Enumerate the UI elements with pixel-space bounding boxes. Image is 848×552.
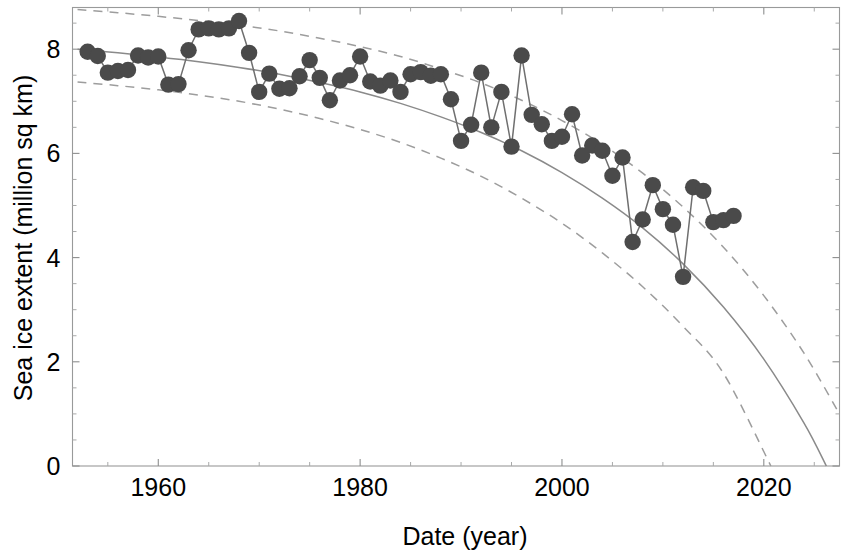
data-point [322,92,338,108]
upper-confidence-curve [78,10,840,414]
data-point [564,106,580,122]
data-point [392,84,408,100]
y-tick-label: 2 [47,348,61,376]
plot-frame [73,8,840,467]
data-point [291,68,307,84]
data-point [90,48,106,64]
data-point [120,62,136,78]
data-point-markers [79,13,741,285]
data-point [261,65,277,81]
data-point [352,48,368,64]
data-point [251,84,267,100]
data-point [635,211,651,227]
data-point [594,143,610,159]
trend-fit-curve [78,49,827,466]
data-point [624,234,640,250]
lower-confidence-curve [78,82,771,466]
data-point [453,133,469,149]
data-point [614,149,630,165]
data-point [655,201,671,217]
data-point [473,64,489,80]
y-axis-title: Sea ice extent (million sq km) [9,75,37,402]
data-point [604,168,620,184]
y-tick-label: 8 [47,35,61,63]
axis-tick-labels: 196019802000202002468 [47,35,792,501]
data-point [513,47,529,63]
data-point [554,129,570,145]
data-point [463,117,479,133]
data-point [665,217,681,233]
axis-ticks [73,8,840,467]
y-tick-label: 0 [47,452,61,480]
data-point [675,269,691,285]
data-point [170,76,186,92]
data-point [503,138,519,154]
data-point [312,70,328,86]
x-tick-label: 1960 [130,473,186,501]
data-point [695,183,711,199]
y-tick-label: 4 [47,244,61,272]
data-point [241,45,257,61]
data-point [231,13,247,29]
data-point [493,84,509,100]
chart-svg: Sea ice extent (million sq km) Date (yea… [0,0,848,552]
x-tick-label: 2020 [736,473,792,501]
y-tick-label: 6 [47,139,61,167]
x-axis-title: Date (year) [402,522,527,550]
data-point [433,66,449,82]
data-point [534,116,550,132]
x-tick-label: 2000 [534,473,590,501]
data-point [443,91,459,107]
data-point [301,52,317,68]
data-point [725,208,741,224]
data-point [342,67,358,83]
data-point [180,42,196,58]
data-point [483,119,499,135]
x-tick-label: 1980 [332,473,388,501]
data-point [150,48,166,64]
sea-ice-extent-chart: Sea ice extent (million sq km) Date (yea… [0,0,848,552]
data-point [645,177,661,193]
